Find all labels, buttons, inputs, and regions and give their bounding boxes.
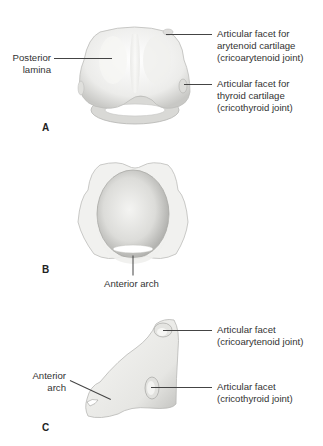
panel-letter-a: A: [42, 122, 49, 133]
label-facet-thyroid: Articular facet for thyroid cartilage (c…: [217, 78, 293, 114]
label-anterior-arch-c: Anterior arch: [32, 370, 66, 394]
leader-anterior-arch: [133, 256, 134, 276]
leader-facet-cricothyroid: [151, 387, 212, 388]
leader-facet-thyroid: [184, 84, 212, 85]
leader-facet-arytenoid: [166, 34, 212, 35]
panel-letter-b: B: [42, 264, 49, 275]
panel-a: Posterior lamina Articular facet for ary…: [0, 0, 323, 150]
panel-c: Anterior arch Articular facet (cricoaryt…: [0, 290, 323, 446]
panel-b: Anterior arch B: [0, 150, 323, 290]
panel-letter-c: C: [42, 422, 49, 433]
label-posterior-lamina: Posterior lamina: [13, 52, 51, 76]
label-anterior-arch: Anterior arch: [104, 278, 159, 290]
leader-anterior-arch-c: [70, 380, 111, 400]
label-facet-cricoarytenoid: Articular facet (cricoarytenoid joint): [217, 324, 303, 348]
leader-posterior-lamina: [54, 58, 112, 59]
label-facet-arytenoid: Articular facet for arytenoid cartilage …: [217, 28, 303, 64]
label-facet-cricothyroid: Articular facet (cricothyroid joint): [217, 381, 293, 405]
leader-facet-cricoarytenoid: [163, 330, 212, 331]
